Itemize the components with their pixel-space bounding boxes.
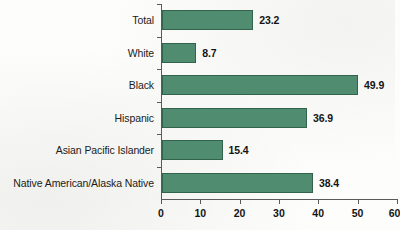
x-axis-tick [318,199,319,204]
x-axis-tick-label: 40 [312,207,324,219]
x-axis-tick-label: 20 [234,207,246,219]
bar: 49.9 [162,75,358,95]
bar-value-label: 8.7 [202,47,216,59]
y-axis-tick [157,69,161,70]
bar-value-label: 36.9 [313,112,333,124]
x-axis-tick [240,199,241,204]
plot-area: Total 23.2 White 8.7 Black 49.9 Hispanic [161,4,397,199]
category-label: Black [129,79,154,91]
bar-value-label: 15.4 [229,144,249,156]
y-axis-tick [157,102,161,103]
bar-value-label: 38.4 [319,177,339,189]
bar: 15.4 [162,140,223,160]
bar: 8.7 [162,43,196,63]
bar-value-label: 23.2 [259,14,279,26]
bar-value-label: 49.9 [364,79,384,91]
x-axis-tick-label: 10 [194,207,206,219]
y-axis-tick [157,4,161,5]
category-label: White [128,47,154,59]
category-label: Native American/Alaska Native [13,177,154,189]
bar: 23.2 [162,10,253,30]
x-axis-tick [279,199,280,204]
category-label: Total [132,14,154,26]
x-axis-tick [358,199,359,204]
y-axis-tick [157,134,161,135]
y-axis-tick [157,167,161,168]
y-axis-tick [157,37,161,38]
category-label: Asian Pacific Islander [56,144,154,156]
x-axis-tick-label: 0 [158,207,164,219]
bar: 36.9 [162,108,307,128]
category-label: Hispanic [115,112,154,124]
x-axis-tick-label: 50 [352,207,364,219]
x-axis-tick [161,199,162,204]
x-axis-tick [397,199,398,204]
bar: 38.4 [162,173,313,193]
x-axis-tick [200,199,201,204]
x-axis-tick-label: 30 [273,207,285,219]
x-axis-tick-label: 60 [389,207,400,219]
